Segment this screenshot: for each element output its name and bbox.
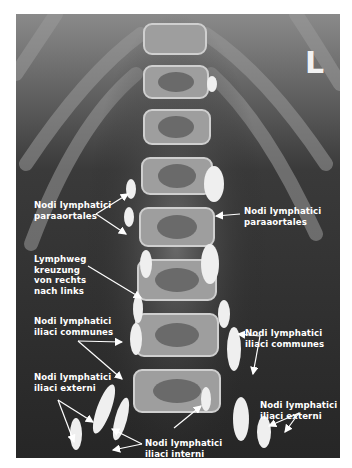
label-iliaci-interni: Nodi lymphatici iliaci interni xyxy=(145,438,222,458)
label-iliaci-communes-left: Nodi lymphatici iliaci communes xyxy=(34,316,113,337)
label-lymphweg-kreuzung: Lymphweg kreuzung von rechts nach links xyxy=(34,254,86,296)
label-paraaortales-left: Nodi lymphatici paraaortales xyxy=(34,200,111,221)
label-paraaortales-right: Nodi lymphatici paraaortales xyxy=(244,206,321,227)
xray-image: L Nodi lymphatici paraaortales Nodi lymp… xyxy=(16,14,340,458)
side-marker-L: L xyxy=(305,48,324,78)
label-iliaci-externi-left: Nodi lymphatici iliaci externi xyxy=(34,372,111,393)
label-iliaci-externi-right: Nodi lymphatici iliaci externi xyxy=(260,400,337,421)
label-iliaci-communes-right: Nodi lymphatici iliaci communes xyxy=(245,328,324,349)
